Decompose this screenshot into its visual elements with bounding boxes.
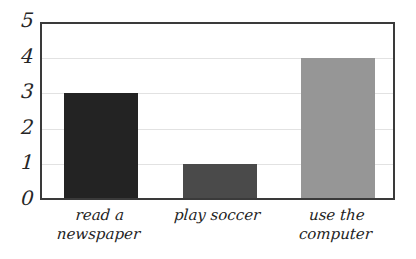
x-axis-category-label: read a newspaper [39,206,160,244]
plot-area [40,22,395,200]
bar [183,164,257,198]
y-axis-tick-label: 4 [7,46,34,66]
x-axis-category-label: use the computer [275,206,396,244]
y-axis-tick-label: 5 [7,10,34,30]
bar-chart: 012345 read a newspaperplay socceruse th… [0,0,416,259]
y-axis-tick-label: 2 [7,117,34,137]
x-axis-category-label: play soccer [158,206,278,225]
y-axis-tick-label: 1 [7,152,34,172]
y-axis-tick-label: 0 [7,188,34,208]
y-axis-tick-label: 3 [7,81,34,101]
bar [64,93,138,198]
bar [301,58,375,198]
